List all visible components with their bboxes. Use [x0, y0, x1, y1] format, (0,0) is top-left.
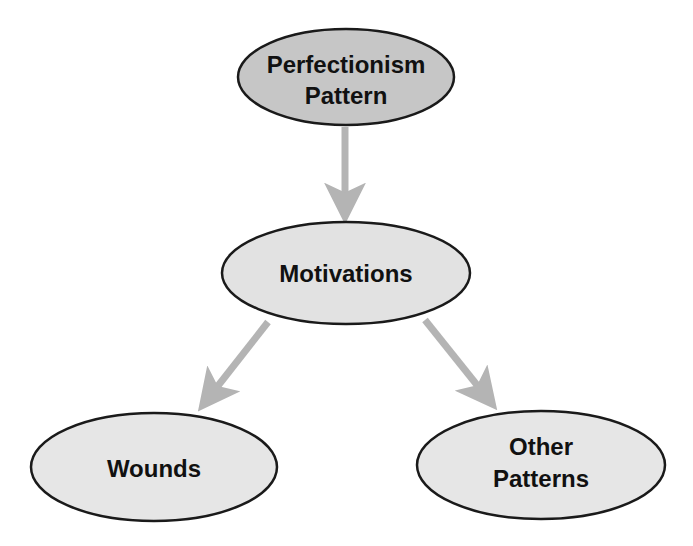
node-motivations: Motivations — [222, 222, 470, 324]
node-perfectionism-pattern: Perfectionism Pattern — [238, 29, 454, 125]
node-label-line-1: Other — [509, 433, 573, 460]
edge-motivations-to-other-patterns — [425, 320, 485, 395]
arrow-down-left-icon — [210, 322, 268, 396]
node-label: Motivations — [279, 260, 412, 287]
diagram-canvas: Perfectionism Pattern Motivations Wounds… — [0, 0, 693, 546]
node-label-line-1: Perfectionism — [267, 51, 426, 78]
node-label-line-2: Patterns — [493, 465, 589, 492]
node-label: Wounds — [107, 455, 201, 482]
node-other-patterns: Other Patterns — [417, 411, 665, 519]
node-wounds: Wounds — [31, 413, 277, 521]
node-label-line-2: Pattern — [305, 82, 388, 109]
edge-motivations-to-wounds — [210, 322, 268, 396]
arrow-down-right-icon — [425, 320, 485, 395]
